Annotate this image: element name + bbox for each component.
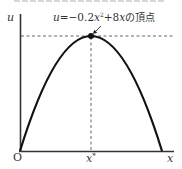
vertex-annotation: u=−0.2x2+8xの頂点 [53,11,155,23]
u-axis-label: u [7,11,14,24]
vertex-x-label: x* [86,152,96,165]
parabola-diagram: u O x x* u=−0.2x2+8xの頂点 [0,0,182,169]
x-axis-label: x [167,152,174,165]
origin-label: O [13,151,22,164]
